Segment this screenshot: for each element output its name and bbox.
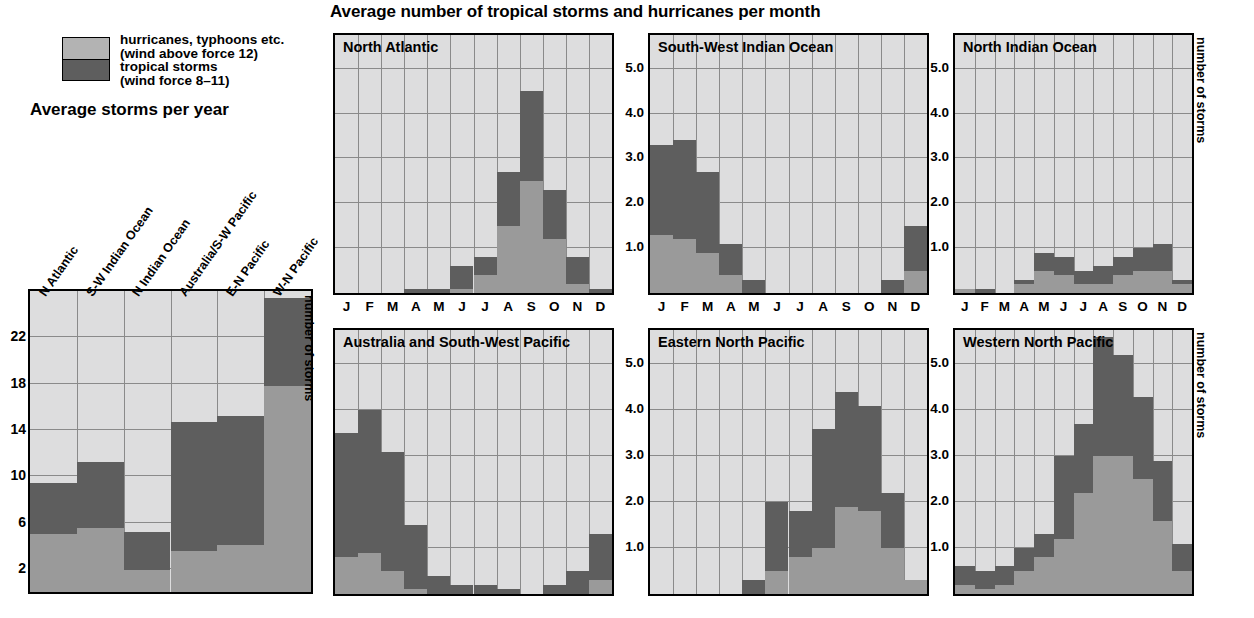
bar-segment-hurricanes [719,275,742,293]
bar-segment-hurricanes [1054,539,1074,594]
year-bar [171,422,218,592]
month-bar [427,289,450,293]
gridline-vertical [1014,35,1015,293]
month-bar [404,525,427,594]
bar-segment-hurricanes [1133,479,1153,594]
month-label: J [450,299,473,314]
bar-segment-hurricanes [1172,284,1192,293]
month-bar [404,289,427,293]
month-bar [1113,355,1133,594]
month-bar [1054,456,1074,594]
gridline-vertical [975,330,976,594]
gridline-vertical [358,35,359,293]
bar-segment-hurricanes [474,275,497,293]
month-bar [904,580,927,594]
bar-segment-storms [520,91,543,181]
gridline-vertical [1054,35,1055,293]
panel-tick-label: 1.0 [612,539,644,554]
month-label: S [520,299,543,314]
month-label: J [765,299,788,314]
bar-segment-hurricanes [77,528,124,592]
month-label: D [904,299,927,314]
bar-segment-storms [124,532,171,570]
bar-segment-hurricanes [124,570,171,592]
month-label: N [881,299,904,314]
panel-eastern-north-pacific: Eastern North Pacific [648,328,929,596]
bar-segment-hurricanes [520,181,543,293]
month-bar [1054,257,1074,293]
month-label: J [1074,299,1094,314]
bar-segment-storms [881,280,904,293]
bar-segment-storms [1014,548,1034,571]
gridline-vertical [474,35,475,293]
month-label: S [835,299,858,314]
month-bar [650,145,673,293]
month-label: F [975,299,995,314]
bar-segment-hurricanes [1034,271,1054,293]
bar-segment-storms [1014,280,1034,284]
month-label: O [858,299,881,314]
month-bar [381,452,404,594]
bar-segment-hurricanes [1034,557,1054,594]
month-bar [765,502,788,594]
bar-segment-storms [1093,266,1113,284]
bar-segment-storms [404,289,427,293]
month-label: A [1093,299,1113,314]
bar-segment-hurricanes [1054,275,1074,293]
bar-segment-storms [566,257,589,284]
bar-segment-hurricanes [450,289,473,293]
bar-segment-hurricanes [955,585,975,594]
gridline-vertical [881,35,882,293]
month-bar [1172,280,1192,293]
panel-australia-and-south-west-pacific: Australia and South-West Pacific [333,328,614,596]
gridline-vertical [719,330,720,594]
month-bar [566,257,589,293]
bar-segment-hurricanes [904,271,927,293]
gridline-vertical [450,330,451,594]
bar-segment-storms [474,585,497,594]
panel-title: South-West Indian Ocean [658,39,833,55]
bar-segment-hurricanes [1153,521,1173,594]
month-bar [975,571,995,594]
month-bar [1034,253,1054,293]
bar-segment-hurricanes [171,551,218,592]
gridline-vertical [904,330,905,594]
panel-axis-label: number of storms [1194,332,1208,438]
gridline-vertical [427,35,428,293]
bar-segment-storms [1113,257,1133,275]
bar-segment-storms [765,502,788,571]
month-bar [1172,544,1192,595]
bar-segment-hurricanes [955,289,975,293]
bar-segment-hurricanes [812,548,835,594]
month-bar [566,571,589,594]
bar-segment-storms [835,392,858,507]
bar-segment-storms [1034,534,1054,557]
gridline-vertical [765,35,766,293]
panel-title: Australia and South-West Pacific [343,334,570,350]
month-bar [955,289,975,293]
bar-segment-hurricanes [1014,571,1034,594]
month-bar [975,289,995,293]
bar-segment-hurricanes [589,580,612,594]
month-bar [543,190,566,293]
bar-segment-storms [1133,248,1153,270]
gridline-vertical [812,35,813,293]
panel-title: Eastern North Pacific [658,334,805,350]
panel-tick-label: 5.0 [612,355,644,370]
month-bar [474,585,497,594]
bar-segment-storms [404,525,427,589]
month-bar [1014,548,1034,594]
bar-segment-hurricanes [543,239,566,293]
left-chart-title: Average storms per year [30,100,229,120]
month-bar [858,406,881,594]
bar-segment-hurricanes [881,548,904,594]
year-bar [77,462,124,592]
month-label: M [1034,299,1054,314]
month-bar [1153,461,1173,594]
bar-segment-storms [742,280,765,293]
bar-segment-storms [995,566,1015,584]
month-bar [1153,244,1173,293]
average-storms-per-year-chart [28,289,313,594]
bar-segment-storms [1074,424,1094,493]
gridline-vertical [589,35,590,293]
